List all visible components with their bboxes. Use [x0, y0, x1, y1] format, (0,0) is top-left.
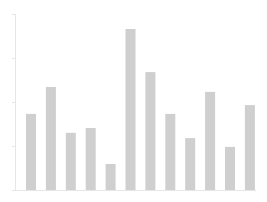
bar [145, 72, 155, 190]
bar [66, 133, 76, 190]
bar [185, 138, 195, 190]
bar-chart [0, 0, 267, 202]
bar [106, 164, 116, 190]
bar [205, 92, 215, 190]
bar [46, 87, 56, 190]
chart-bars [26, 29, 255, 190]
bar [86, 128, 96, 190]
bar [245, 105, 255, 190]
bar [165, 114, 175, 190]
bar [126, 29, 136, 190]
bar [225, 147, 235, 190]
bar [26, 114, 36, 190]
